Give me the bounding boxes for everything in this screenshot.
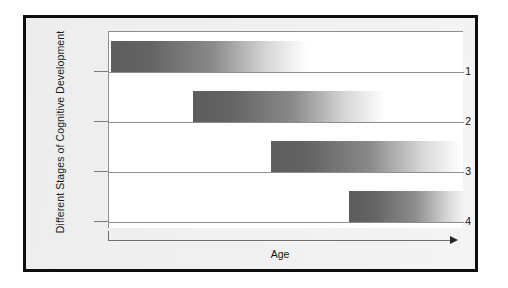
y-tick-mark-stage-1 <box>94 71 108 72</box>
bar-stage-4 <box>349 191 464 222</box>
y-tick-mark-stage-3 <box>94 171 108 172</box>
gridline-stage-2 <box>109 122 464 123</box>
x-axis-title: Age <box>108 248 452 260</box>
figure-canvas: Different Stages of Cognitive Developmen… <box>0 0 508 288</box>
y-tick-mark-stage-4 <box>94 221 108 222</box>
y-axis-title: Different Stages of Cognitive Developmen… <box>54 16 66 248</box>
gridline-stage-1 <box>109 72 464 73</box>
x-axis-arrowhead-icon <box>450 236 458 244</box>
bar-stage-1 <box>111 41 307 72</box>
bar-stage-3 <box>271 141 461 172</box>
gridline-stage-4 <box>109 222 464 223</box>
y-tick-mark-stage-2 <box>94 121 108 122</box>
x-axis-line <box>108 240 452 241</box>
plot-area <box>108 31 463 228</box>
figure-panel: Different Stages of Cognitive Developmen… <box>26 18 475 269</box>
figure-frame: Different Stages of Cognitive Developmen… <box>23 15 478 272</box>
bar-stage-2 <box>193 91 385 122</box>
gridline-stage-3 <box>109 172 464 173</box>
